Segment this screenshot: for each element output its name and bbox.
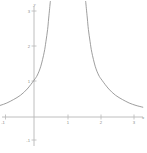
function-plot-figure: -1 1 2 3 3 2 1 -1 y x	[0, 0, 147, 153]
y-tick-label-neg1: -1	[26, 138, 30, 143]
y-tick-label-3: 3	[28, 9, 31, 14]
curve-left-branch	[0, 2, 50, 108]
x-tick-label-1: 1	[67, 120, 70, 125]
x-tick-label-2: 2	[100, 120, 103, 125]
curve-right-branch	[86, 2, 143, 108]
y-tick-label-1: 1	[28, 79, 31, 84]
x-tick-label-3: 3	[133, 120, 136, 125]
y-axis-label: y	[32, 2, 36, 7]
y-tick-label-2: 2	[28, 44, 31, 49]
plot-canvas: -1 1 2 3 3 2 1 -1 y x	[0, 0, 147, 153]
x-tick-label-neg1: -1	[1, 120, 5, 125]
x-axis-label: x	[141, 115, 145, 120]
